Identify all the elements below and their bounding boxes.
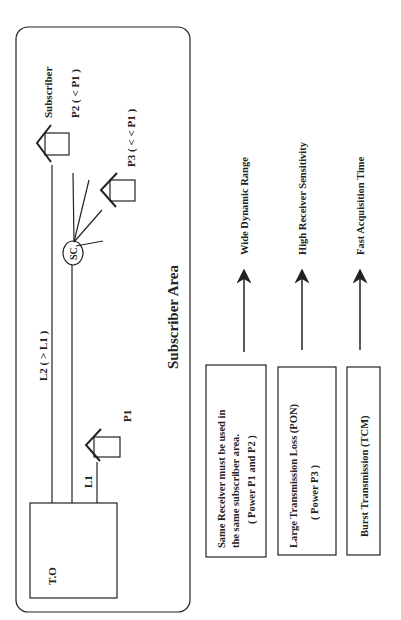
- line-l2-label: L2 ( > L1 ): [37, 330, 50, 381]
- splitter-branch-1: [73, 173, 74, 242]
- subscriber-p1-label: P1: [121, 410, 133, 422]
- condition-1-line-1: Same Receiver must be used in: [216, 410, 227, 548]
- house-p2-icon: [37, 125, 69, 162]
- house-p1-icon: [86, 429, 120, 461]
- condition-box-transmission-loss: [278, 367, 336, 555]
- telephone-office-label: T.O: [46, 567, 58, 585]
- subscriber-p2-label: P2 ( < P1 ): [69, 69, 82, 118]
- condition-3-line-1: Burst Transmission (TCM): [359, 415, 371, 537]
- condition-1-line-3: ( Power P1 and P2 ): [246, 435, 258, 524]
- star-coupler-label: SC: [68, 247, 79, 260]
- splitter-branch-4: [76, 241, 103, 246]
- condition-1-line-2: the same subscriber area.: [230, 434, 241, 548]
- condition-2-line-2: ( Power P3 ): [309, 465, 321, 520]
- house-p3-icon: [101, 173, 135, 207]
- subscriber-header: Subscriber: [42, 67, 54, 118]
- subscriber-area-label: Subscriber Area: [165, 264, 181, 369]
- condition-2-line-1: Large Transmission Loss (PON): [288, 404, 300, 548]
- diagram-canvas: Subscriber Area T.O L2 ( > L1 ) L1 SC Su…: [0, 0, 401, 620]
- result-wide-dynamic-range: Wide Dynamic Range: [239, 157, 250, 255]
- telephone-office-box: [30, 503, 117, 598]
- result-high-receiver-sensitivity: High Receiver Sensitivity: [297, 141, 308, 255]
- subscriber-p3-label: P3 ( < < P1 ): [125, 109, 138, 167]
- result-fast-acquisition-time: Fast Acquisition Time: [355, 156, 366, 255]
- line-l1-label: L1: [82, 475, 94, 488]
